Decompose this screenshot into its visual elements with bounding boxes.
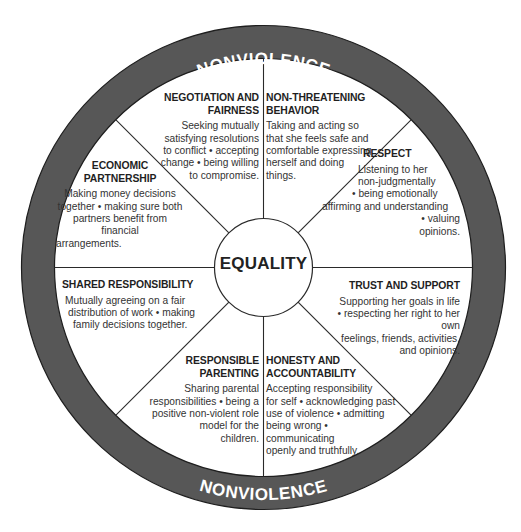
center-label: EQUALITY — [214, 254, 313, 274]
segment-honesty-accountability: HONESTY AND ACCOUNTABILITY Accepting res… — [266, 355, 396, 458]
segment-respect: RESPECT Listening to her non-judgmentall… — [322, 148, 460, 238]
segment-trust-support: TRUST AND SUPPORT Supporting her goals i… — [320, 280, 460, 358]
segment-title: HONESTY AND ACCOUNTABILITY — [266, 355, 396, 380]
segment-responsible-parenting: RESPONSIBLE PARENTING Sharing parental r… — [148, 355, 259, 445]
segment-title: RESPONSIBLE PARENTING — [148, 355, 259, 380]
segment-shared-responsibility: SHARED RESPONSIBILITY Mutually agreeing … — [62, 279, 212, 332]
segment-description: Sharing parental responsibilities • bein… — [148, 383, 259, 445]
segment-title: NON-THREATENING BEHAVIOR — [266, 92, 378, 117]
segment-economic-partnership: ECONOMIC PARTNERSHIP Making money decisi… — [56, 160, 184, 250]
segment-description: Listening to her non-judgmentally • bein… — [322, 164, 460, 238]
segment-description: Mutually agreeing on a fair distribution… — [62, 295, 212, 332]
segment-title: TRUST AND SUPPORT — [320, 280, 460, 293]
segment-description: Supporting her goals in life • respectin… — [320, 296, 460, 358]
segment-description: Making money decisions together • making… — [56, 188, 184, 250]
segment-description: Accepting responsibility for self • ackn… — [266, 383, 396, 457]
segment-title: NEGOTIATION AND FAIRNESS — [150, 92, 259, 117]
segment-title: ECONOMIC PARTNERSHIP — [56, 160, 184, 185]
segment-title: SHARED RESPONSIBILITY — [62, 279, 212, 292]
segment-title: RESPECT — [322, 148, 460, 161]
